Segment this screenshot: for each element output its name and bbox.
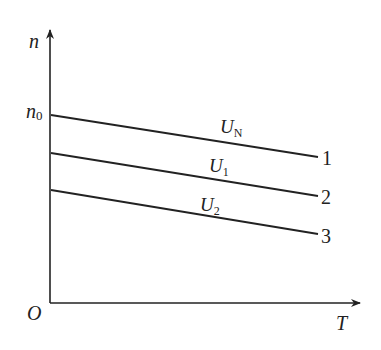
origin-label: O xyxy=(27,302,41,324)
x-axis-label: T xyxy=(336,312,349,334)
label-U1: U1 xyxy=(209,155,229,179)
line-number-3: 3 xyxy=(321,225,331,247)
label-UN: UN xyxy=(220,116,243,140)
n0-label: n0 xyxy=(26,100,43,123)
line-2 xyxy=(51,153,318,196)
line-number-2: 2 xyxy=(321,186,331,208)
line-1 xyxy=(51,115,318,157)
speed-torque-diagram: n T O n0 UN U1 U2 1 2 3 xyxy=(0,0,381,350)
line-3 xyxy=(51,190,318,234)
label-U2: U2 xyxy=(200,194,220,218)
y-axis-label: n xyxy=(29,30,39,52)
line-number-1: 1 xyxy=(322,147,332,169)
